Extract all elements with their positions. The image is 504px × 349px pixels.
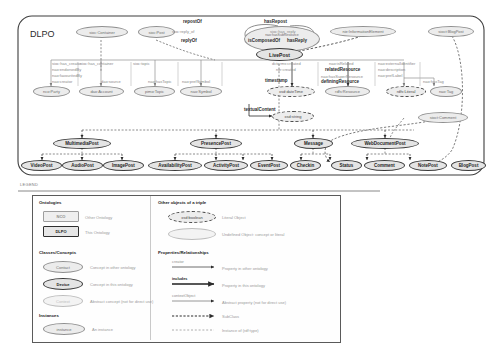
diagram-root: sioc:Container sioc:Post sioc:has_creato… <box>0 0 504 349</box>
legend-sample-arrows <box>0 0 504 349</box>
